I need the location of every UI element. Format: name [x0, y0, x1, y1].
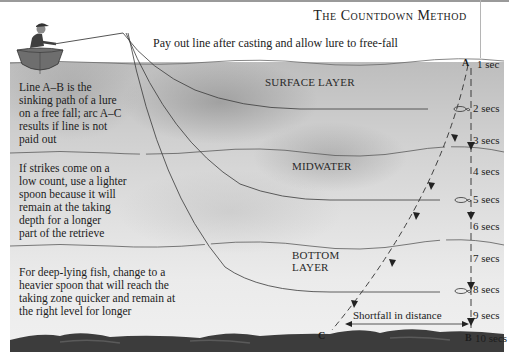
- arrow-down-icon: [451, 134, 458, 142]
- note-line: spoon because it will: [19, 188, 127, 201]
- note-line: results if line is not: [19, 120, 122, 133]
- countdown-2: 2 secs: [473, 102, 500, 114]
- note-line: If strikes come on a: [19, 162, 127, 175]
- countdown-6: 6 secs: [473, 220, 500, 232]
- note-line: the right level for longer: [19, 305, 175, 318]
- note-line: low count, use a lighter: [19, 175, 127, 188]
- line-surface-path: [123, 33, 428, 109]
- layer-label-bottom: BOTTOM LAYER: [292, 249, 339, 273]
- note-heavier-spoon: For deep-lying fish, change to a heavier…: [19, 266, 175, 318]
- bottom-layer-boundary: [10, 240, 504, 249]
- countdown-8: 8 secs: [473, 283, 500, 295]
- line-bottom-path: [128, 33, 440, 292]
- arrow-down-icon: [351, 300, 358, 308]
- note-line: part of the retrieve: [19, 227, 127, 240]
- point-a: A: [462, 57, 469, 68]
- point-b: B: [465, 332, 472, 343]
- countdown-method-diagram: The Countdown Method Pay out line after …: [0, 0, 509, 352]
- arrow-down-icon: [467, 212, 475, 220]
- layer-label-bottom-line1: BOTTOM: [292, 249, 339, 261]
- countdown-1: 1 sec: [477, 58, 499, 70]
- arrow-down-icon: [428, 182, 435, 190]
- countdown-5: 5 secs: [473, 193, 500, 205]
- note-line: on a free fall; arc A–C: [19, 107, 122, 120]
- countdown-10: 10 secs: [475, 332, 507, 344]
- layer-label-surface: SURFACE LAYER: [265, 76, 355, 88]
- point-c: C: [318, 330, 325, 341]
- arc-a-to-c: [332, 65, 468, 330]
- note-line: remain at the taking: [19, 201, 127, 214]
- note-line: sinking path of a lure: [19, 94, 122, 107]
- countdown-4: 4 secs: [473, 165, 500, 177]
- arrow-right-icon: [462, 321, 469, 327]
- spoon-lure-icon: [455, 198, 471, 203]
- shortfall-label: Shortfall in distance: [353, 309, 442, 321]
- countdown-9: 9 secs: [473, 309, 500, 321]
- arrow-down-icon: [413, 212, 420, 220]
- arrow-down-icon: [389, 259, 396, 267]
- arrow-left-icon: [345, 321, 352, 327]
- countdown-3: 3 secs: [473, 134, 500, 146]
- line-midwater-path: [126, 33, 440, 200]
- midwater-boundary: [10, 147, 504, 156]
- angler-in-boat-icon: [17, 23, 123, 74]
- note-line: Line A–B is the: [19, 81, 122, 94]
- layer-label-midwater: MIDWATER: [292, 160, 352, 172]
- note-line: taking zone quicker and remain at: [19, 292, 175, 305]
- note-sinking-path: Line A–B is the sinking path of a lure o…: [19, 81, 122, 146]
- note-line: For deep-lying fish, change to a: [19, 266, 175, 279]
- note-line: depth for a longer: [19, 214, 127, 227]
- note-lighter-spoon: If strikes come on a low count, use a li…: [19, 162, 127, 240]
- spoon-lure-icon: [455, 289, 471, 294]
- layer-label-bottom-line2: LAYER: [292, 261, 339, 273]
- countdown-7: 7 secs: [473, 252, 500, 264]
- note-line: paid out: [19, 133, 122, 146]
- note-line: heavier spoon that will reach the: [19, 279, 175, 292]
- water-surface-line: [10, 59, 504, 66]
